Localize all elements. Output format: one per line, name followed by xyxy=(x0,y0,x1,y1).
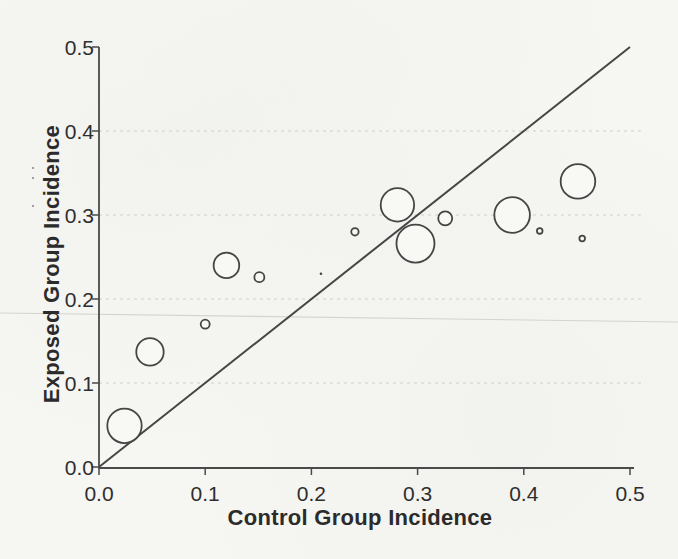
scan-speck xyxy=(32,205,34,207)
y-tick-label: 0.1 xyxy=(65,372,94,395)
study-bubble xyxy=(579,236,585,242)
study-bubble xyxy=(254,272,264,282)
study-bubble xyxy=(438,211,452,225)
study-bubble xyxy=(561,164,596,199)
study-bubble xyxy=(351,228,358,235)
scan-artifact-line xyxy=(0,313,678,322)
y-tick-label: 0.0 xyxy=(65,456,94,479)
labbe-bubble-plot: 0.00.10.20.30.40.50.00.10.20.30.40.5 xyxy=(0,0,678,559)
x-tick-label: 0.1 xyxy=(191,482,220,505)
study-bubble xyxy=(107,409,141,443)
scan-speck xyxy=(32,167,34,169)
scanned-figure-page: 0.00.10.20.30.40.50.00.10.20.30.40.5 Con… xyxy=(0,0,678,559)
study-bubble xyxy=(214,253,240,279)
scan-speck xyxy=(32,177,34,179)
y-axis-title: Exposed Group Incidence xyxy=(39,125,65,403)
y-tick-label: 0.5 xyxy=(65,36,94,59)
x-tick-label: 0.3 xyxy=(403,482,432,505)
study-bubble xyxy=(396,225,434,263)
x-tick-label: 0.0 xyxy=(84,482,113,505)
study-bubble xyxy=(201,320,210,329)
x-axis-title: Control Group Incidence xyxy=(80,505,640,531)
y-tick-label: 0.4 xyxy=(65,120,95,143)
study-bubble xyxy=(537,228,543,234)
x-tick-label: 0.2 xyxy=(297,482,326,505)
x-tick-label: 0.5 xyxy=(615,482,644,505)
axes-frame xyxy=(99,47,634,468)
study-bubble xyxy=(381,188,414,221)
study-bubble xyxy=(136,338,163,365)
y-tick-label: 0.2 xyxy=(65,288,94,311)
x-tick-label: 0.4 xyxy=(509,482,539,505)
y-tick-label: 0.3 xyxy=(65,204,94,227)
study-dot xyxy=(320,273,323,276)
identity-line xyxy=(99,47,630,467)
study-bubble xyxy=(494,197,530,233)
